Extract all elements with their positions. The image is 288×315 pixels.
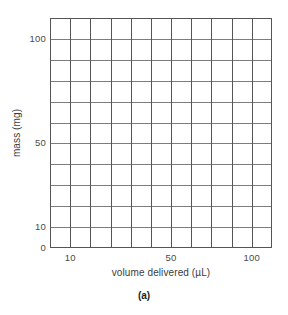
vertical-gridlines — [71, 18, 253, 248]
y-axis-tick-label: 10 — [35, 222, 46, 232]
y-axis-tick-label: 100 — [30, 34, 46, 44]
x-axis-title: volume delivered (µL) — [50, 267, 272, 278]
x-axis-tick-label: 100 — [244, 252, 260, 263]
y-axis-title: mass (mg) — [11, 109, 22, 157]
plot-border — [51, 19, 272, 248]
x-axis-tick-label: 50 — [166, 252, 177, 263]
chart-plot-area — [50, 18, 272, 248]
y-axis-tick-label: 0 — [41, 243, 46, 253]
figure-caption: (a) — [0, 290, 288, 301]
horizontal-gridlines — [50, 40, 272, 228]
figure-panel-a: 10050100 1050100 volume delivered (µL) m… — [0, 0, 288, 315]
y-axis-title-wrapper: mass (mg) — [8, 18, 24, 248]
x-axis-tick-labels: 1050100 — [50, 252, 272, 266]
grid-lines — [50, 18, 272, 248]
x-axis-tick-label: 10 — [65, 252, 76, 263]
y-axis-tick-label: 50 — [35, 138, 46, 148]
